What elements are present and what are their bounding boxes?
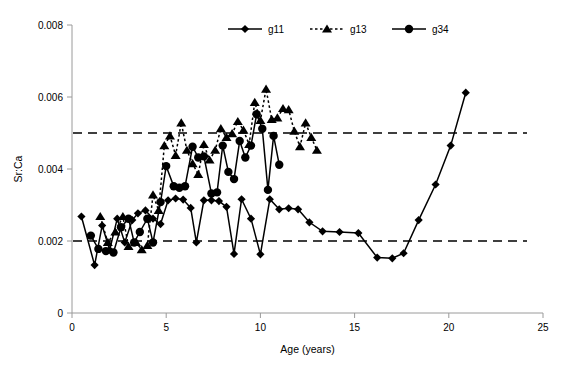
data-point-g13 — [159, 141, 169, 149]
data-point-g34 — [188, 142, 196, 150]
data-point-g34 — [143, 214, 151, 222]
data-point-g13 — [306, 133, 316, 141]
x-axis-title: Age (years) — [280, 343, 334, 355]
data-point-g11 — [335, 228, 343, 236]
x-tick-label: 25 — [537, 322, 549, 333]
chart-container: 00.0020.0040.0060.0080510152025Age (year… — [0, 0, 566, 379]
data-point-g13 — [238, 126, 248, 134]
data-point-g13 — [193, 170, 203, 178]
y-axis-title: Sr:Ca — [12, 155, 24, 182]
data-point-g11 — [200, 196, 208, 204]
data-point-g34 — [264, 186, 272, 194]
data-point-g13 — [233, 117, 243, 125]
x-tick-label: 5 — [163, 322, 169, 333]
data-point-g34 — [124, 214, 132, 222]
data-point-g11 — [164, 196, 172, 204]
data-point-g34 — [94, 245, 102, 253]
data-point-g13 — [272, 113, 282, 121]
chart-legend: g11g13g34 — [228, 24, 449, 35]
data-point-g11 — [399, 249, 407, 257]
data-point-g34 — [87, 231, 95, 239]
data-point-g13 — [250, 98, 260, 106]
legend-marker-g34 — [405, 25, 413, 33]
data-point-g34 — [181, 182, 189, 190]
data-point-g34 — [219, 141, 227, 149]
data-point-g34 — [162, 162, 170, 170]
data-point-g34 — [235, 137, 243, 145]
data-point-g13 — [199, 140, 209, 148]
data-point-g34 — [252, 110, 260, 118]
data-point-g11 — [318, 227, 326, 235]
data-point-g34 — [224, 168, 232, 176]
data-point-g11 — [388, 254, 396, 262]
data-point-g34 — [149, 238, 157, 246]
data-point-g34 — [241, 153, 249, 161]
data-point-g34 — [213, 188, 221, 196]
data-point-g34 — [109, 248, 117, 256]
data-point-g13 — [261, 84, 271, 92]
y-tick-label: 0.006 — [38, 92, 63, 103]
data-point-g11 — [91, 261, 99, 269]
data-point-g13 — [148, 190, 158, 198]
legend-label-g13: g13 — [350, 24, 367, 35]
data-point-g11 — [256, 250, 264, 258]
data-point-g13 — [301, 118, 311, 126]
data-point-g34 — [156, 198, 164, 206]
data-point-g11 — [230, 250, 238, 258]
data-point-g11 — [285, 204, 293, 212]
data-point-g34 — [269, 132, 277, 140]
legend-item-g34[interactable]: g34 — [392, 24, 449, 35]
data-point-g11 — [192, 238, 200, 246]
data-point-g13 — [210, 146, 220, 154]
data-point-g11 — [247, 215, 255, 223]
data-point-g11 — [432, 180, 440, 188]
y-tick-label: 0 — [57, 308, 63, 319]
data-point-g11 — [77, 212, 85, 220]
data-point-g34 — [247, 141, 255, 149]
data-point-g11 — [237, 195, 245, 203]
legend-label-g34: g34 — [432, 24, 449, 35]
x-tick-label: 10 — [255, 322, 267, 333]
legend-item-g13[interactable]: g13 — [310, 24, 367, 35]
data-point-g34 — [275, 160, 283, 168]
data-point-g11 — [172, 194, 180, 202]
plot-axes — [72, 25, 543, 313]
legend-label-g11: g11 — [268, 24, 284, 35]
data-point-g13 — [216, 124, 226, 132]
data-point-g34 — [102, 247, 110, 255]
y-tick-label: 0.008 — [38, 20, 63, 31]
y-tick-label: 0.004 — [38, 164, 63, 175]
data-point-g34 — [200, 152, 208, 160]
data-point-g34 — [230, 175, 238, 183]
data-point-g13 — [312, 146, 322, 154]
data-point-g13 — [171, 151, 181, 159]
y-tick-label: 0.002 — [38, 236, 63, 247]
axis-labels-layer: 00.0020.0040.0060.0080510152025Age (year… — [12, 20, 549, 356]
data-point-g13 — [176, 118, 186, 126]
data-point-g11 — [415, 216, 423, 224]
data-point-g34 — [117, 223, 125, 231]
x-tick-label: 20 — [443, 322, 455, 333]
data-point-g11 — [447, 142, 455, 150]
data-point-g13 — [295, 142, 305, 150]
legend-item-g11[interactable]: g11 — [228, 24, 284, 35]
data-point-g13 — [95, 212, 105, 220]
data-point-g11 — [462, 89, 470, 97]
sr-ca-vs-age-line-chart: 00.0020.0040.0060.0080510152025Age (year… — [0, 0, 566, 379]
data-point-g34 — [258, 124, 266, 132]
x-tick-label: 0 — [69, 322, 75, 333]
data-point-g13 — [289, 127, 299, 135]
data-point-g34 — [130, 238, 138, 246]
data-point-g34 — [136, 228, 144, 236]
legend-marker-g11 — [241, 25, 249, 33]
x-tick-label: 15 — [349, 322, 361, 333]
axes-layer — [67, 25, 543, 318]
